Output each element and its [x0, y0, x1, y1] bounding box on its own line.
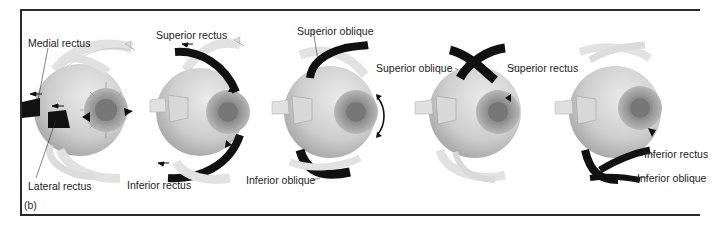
- label-inferior-rectus-eye5: Inferior rectus: [644, 148, 708, 160]
- label-inferior-oblique-eye3: Inferior oblique: [246, 174, 315, 186]
- eye-3-superior-inferior-oblique: [272, 30, 384, 180]
- panel-label: (b): [24, 199, 37, 211]
- label-medial-rectus: Medial rectus: [28, 37, 90, 49]
- label-inferior-oblique-eye5: Inferior oblique: [637, 172, 706, 184]
- eye-2-superior-inferior-rectus: [150, 37, 250, 179]
- label-lateral-rectus: Lateral rectus: [28, 180, 92, 192]
- eye-1-medial-lateral-rectus: [22, 41, 135, 178]
- label-superior-oblique-eye3: Superior oblique: [297, 25, 373, 37]
- label-superior-oblique-eye4: Superior oblique: [376, 62, 452, 74]
- label-superior-rectus-eye2: Superior rectus: [156, 29, 227, 41]
- label-inferior-rectus-eye2: Inferior rectus: [127, 179, 191, 191]
- label-superior-rectus-eye4: Superior rectus: [507, 62, 578, 74]
